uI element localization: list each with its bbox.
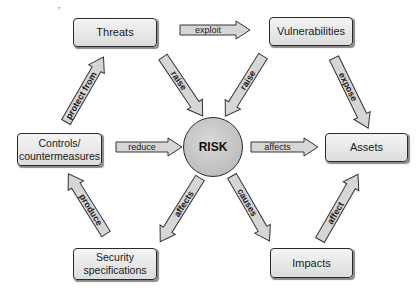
arrow-produce: produce — [61, 169, 114, 239]
arrow-raise-vulnerabilities: raise — [218, 51, 271, 121]
arrow-label-produce: produce — [68, 181, 113, 239]
arrow-label-affects: affects — [160, 173, 208, 234]
arrow-expose: expose — [326, 54, 376, 132]
arrow-protect-from: protect from — [58, 53, 111, 127]
arrow-causes: causes — [224, 172, 277, 246]
arrow-label-exploit: exploit — [180, 21, 236, 39]
arrow-label-raise: raise — [156, 52, 203, 109]
node-security-specifications: Security specifications — [73, 248, 157, 280]
arrow-affect: affect — [312, 170, 366, 245]
arrow-label-protect-from: protect from — [58, 65, 104, 127]
cropped-caption-mark: , — [58, 0, 61, 10]
arrow-exploit: exploit — [180, 21, 250, 39]
node-vulnerabilities: Vulnerabilities — [269, 17, 353, 46]
arrow-label-expose: expose — [326, 54, 370, 119]
node-impacts: Impacts — [270, 248, 353, 278]
node-assets: Assets — [325, 133, 408, 162]
node-risk: RISK — [183, 117, 243, 177]
arrow-affects-security-specifications: affects — [153, 173, 208, 246]
arrow-affects-assets: affects — [251, 138, 318, 156]
arrow-label-affect: affect — [312, 182, 359, 245]
arrow-label-causes: causes — [224, 172, 270, 234]
risk-diagram: , Threats Vulnerabilities Controls/ coun… — [0, 0, 420, 292]
node-controls-countermeasures: Controls/ countermeasures — [17, 133, 102, 166]
arrow-label-affects: affects — [251, 138, 304, 156]
arrow-reduce: reduce — [116, 138, 182, 156]
arrow-label-reduce: reduce — [116, 138, 168, 156]
node-threats: Threats — [73, 18, 157, 47]
arrow-raise-threats: raise — [156, 52, 211, 121]
arrow-label-raise: raise — [225, 51, 270, 109]
